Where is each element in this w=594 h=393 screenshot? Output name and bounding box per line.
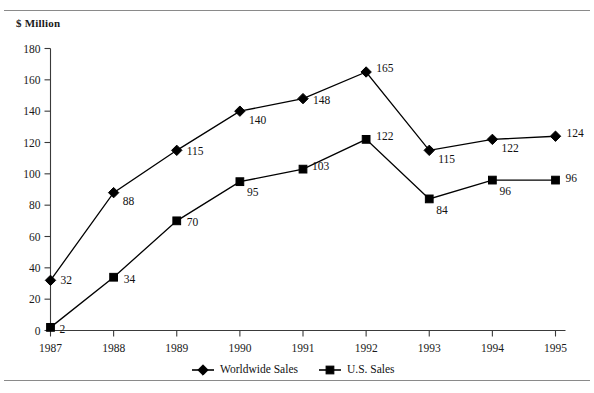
square-marker	[236, 178, 244, 186]
data-point-label: 165	[376, 62, 394, 74]
bottom-divider-rule	[4, 380, 590, 381]
diamond-marker	[172, 145, 182, 155]
square-marker	[173, 217, 181, 225]
data-point-label: 32	[61, 274, 73, 286]
data-point-label: 96	[499, 185, 511, 197]
x-axis-tick-label: 1994	[481, 342, 504, 354]
diamond-marker	[45, 275, 55, 285]
figure-container: $ Million 020406080100120140160180 19871…	[0, 0, 594, 393]
data-point-label: 34	[124, 273, 136, 285]
y-axis: 020406080100120140160180	[23, 43, 50, 337]
square-marker	[326, 366, 334, 374]
square-marker	[362, 135, 370, 143]
square-marker	[425, 195, 433, 203]
y-axis-tick-label: 140	[23, 105, 41, 117]
legend-item: Worldwide Sales	[192, 363, 298, 376]
y-axis-tick-label: 0	[35, 325, 41, 337]
data-point-label: 2	[60, 323, 66, 335]
chart-legend: Worldwide SalesU.S. Sales	[192, 363, 395, 376]
x-axis-tick-label: 1988	[102, 342, 125, 354]
y-axis-tick-label: 100	[23, 168, 41, 180]
square-marker	[552, 176, 560, 184]
line-chart-plot: 020406080100120140160180 198719881989199…	[0, 0, 594, 393]
data-point-label: 84	[436, 204, 448, 216]
data-point-label: 124	[567, 127, 585, 139]
y-axis-tick-label: 80	[29, 199, 41, 211]
data-point-labels: 3288115140148165115122124234709510312284…	[60, 62, 585, 335]
square-marker	[489, 176, 497, 184]
diamond-marker	[108, 187, 118, 197]
y-axis-tick-label: 160	[23, 74, 41, 86]
data-point-label: 96	[566, 172, 578, 184]
x-axis-tick-label: 1993	[418, 342, 441, 354]
y-axis-tick-label: 180	[23, 43, 41, 55]
diamond-marker	[235, 106, 245, 116]
data-point-label: 122	[501, 142, 519, 154]
data-point-label: 103	[312, 160, 330, 172]
data-point-label: 148	[313, 94, 331, 106]
legend-label: U.S. Sales	[347, 363, 395, 375]
square-marker	[110, 273, 118, 281]
diamond-marker	[198, 365, 208, 375]
x-axis-tick-label: 1995	[544, 342, 567, 354]
data-point-label: 122	[376, 130, 394, 142]
data-point-label: 70	[187, 216, 199, 228]
diamond-marker	[550, 131, 560, 141]
x-axis-tick-label: 1990	[228, 342, 251, 354]
diamond-marker	[487, 134, 497, 144]
x-axis-tick-label: 1992	[355, 342, 378, 354]
square-marker	[299, 165, 307, 173]
y-axis-tick-label: 20	[29, 293, 41, 305]
x-axis-tick-label: 1987	[39, 342, 62, 354]
data-point-label: 88	[123, 195, 135, 207]
diamond-marker	[298, 93, 308, 103]
legend-label: Worldwide Sales	[220, 363, 298, 375]
data-point-label: 115	[187, 145, 204, 157]
x-axis-tick-label: 1991	[292, 342, 315, 354]
data-point-label: 95	[247, 186, 259, 198]
square-marker	[47, 323, 55, 331]
x-axis: 198719881989199019911992199319941995	[39, 331, 567, 354]
y-axis-tick-label: 120	[23, 137, 41, 149]
y-axis-tick-label: 40	[29, 262, 41, 274]
legend-item: U.S. Sales	[319, 363, 395, 375]
data-point-label: 140	[249, 114, 267, 126]
y-axis-tick-label: 60	[29, 231, 41, 243]
x-axis-tick-label: 1989	[165, 342, 188, 354]
data-point-label: 115	[438, 153, 455, 165]
